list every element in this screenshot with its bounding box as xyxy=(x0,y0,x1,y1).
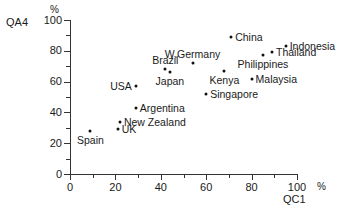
data-point xyxy=(230,35,233,38)
data-point-label: Indonesia xyxy=(290,41,336,52)
data-point-label: W.Germany xyxy=(165,49,220,60)
data-point xyxy=(261,54,264,57)
data-point-label: Philippines xyxy=(238,59,289,70)
data-point xyxy=(205,92,208,95)
data-point xyxy=(134,106,137,109)
data-point-label: Japan xyxy=(156,76,185,87)
data-point xyxy=(164,68,167,71)
data-point xyxy=(223,69,226,72)
data-point-label: USA xyxy=(110,81,132,92)
data-point-label: Kenya xyxy=(209,75,239,86)
data-point-label: New Zealand xyxy=(124,116,186,127)
data-point-label: Malaysia xyxy=(256,73,297,84)
scatter-chart-figure: QA4 % QC1 % 020406080100020406080100 Spa… xyxy=(0,0,338,220)
data-point xyxy=(191,62,194,65)
data-point xyxy=(116,128,119,131)
data-point xyxy=(134,85,137,88)
data-point xyxy=(118,120,121,123)
data-point-label: Singapore xyxy=(210,89,258,100)
data-point xyxy=(284,45,287,48)
data-point xyxy=(250,77,253,80)
data-point-label: Spain xyxy=(77,135,104,146)
plot-data-area: SpainUKNew ZealandArgentinaUSABrazilJapa… xyxy=(0,0,338,220)
data-point xyxy=(89,129,92,132)
data-point xyxy=(271,51,274,54)
data-point xyxy=(168,71,171,74)
data-point-label: China xyxy=(235,32,262,43)
data-point-label: Argentina xyxy=(140,103,185,114)
